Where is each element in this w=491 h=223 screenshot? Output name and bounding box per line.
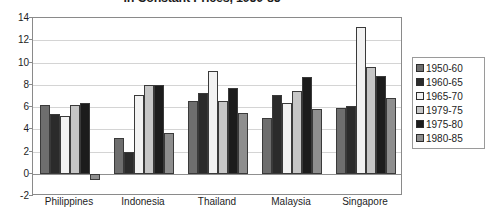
y-tick-label: 8: [3, 78, 29, 89]
legend-label: 1980-85: [426, 133, 463, 144]
legend-item: 1950-60: [416, 61, 482, 75]
chart-title: in Constant Prices, 1950-85: [0, 0, 404, 5]
legend-swatch: [416, 134, 424, 142]
bar-group: [33, 18, 107, 194]
bar: [198, 93, 208, 174]
y-tick-label: 10: [3, 56, 29, 67]
bar: [188, 101, 198, 173]
bar: [302, 77, 312, 174]
bar: [376, 76, 386, 174]
bar: [312, 109, 322, 174]
bar: [70, 105, 80, 174]
bar: [208, 71, 218, 173]
legend-item: 1980-85: [416, 131, 482, 145]
bar: [292, 91, 302, 173]
y-tick-label: 12: [3, 34, 29, 45]
legend-label: 1965-70: [426, 91, 463, 102]
bar-group: [181, 18, 255, 194]
bar: [60, 116, 70, 174]
bars-layer: [33, 18, 401, 194]
x-axis-label: Philippines: [32, 196, 106, 207]
legend-item: 1965-70: [416, 89, 482, 103]
bar: [336, 108, 346, 174]
legend-item: 1979-75: [416, 103, 482, 117]
bar: [346, 106, 356, 174]
legend-swatch: [416, 78, 424, 86]
legend: 1950-601960-651965-701979-751975-801980-…: [412, 57, 485, 149]
bar-chart: in Constant Prices, 1950-85 14121086420-…: [0, 0, 491, 223]
bar: [218, 101, 228, 173]
bar-group: [255, 18, 329, 194]
y-tick-label: 4: [3, 123, 29, 134]
x-axis-label: Malaysia: [254, 196, 328, 207]
bar: [40, 105, 50, 174]
bar: [144, 85, 154, 174]
bar: [386, 98, 396, 174]
legend-item: 1975-80: [416, 117, 482, 131]
y-tick-label: 0: [3, 167, 29, 178]
bar: [366, 67, 376, 174]
bar-group: [107, 18, 181, 194]
bar: [154, 85, 164, 174]
legend-item: 1960-65: [416, 75, 482, 89]
legend-label: 1975-80: [426, 119, 463, 130]
bar: [282, 103, 292, 174]
bar-group: [329, 18, 403, 194]
bar: [164, 133, 174, 174]
y-axis: 14121086420-2: [0, 17, 29, 195]
bar: [90, 174, 100, 181]
bar: [80, 103, 90, 174]
y-tick-label: 14: [3, 12, 29, 23]
bar: [272, 95, 282, 174]
bar: [50, 114, 60, 174]
x-axis-category-labels: PhilippinesIndonesiaThailandMalaysiaSing…: [32, 196, 402, 210]
bar: [262, 118, 272, 174]
plot-area: [32, 17, 402, 195]
bar: [356, 27, 366, 174]
y-tick-label: -2: [3, 190, 29, 201]
y-tick-label: 6: [3, 101, 29, 112]
legend-label: 1960-65: [426, 77, 463, 88]
legend-swatch: [416, 120, 424, 128]
bar: [124, 152, 134, 174]
bar: [228, 88, 238, 174]
legend-swatch: [416, 106, 424, 114]
bar: [134, 95, 144, 174]
legend-swatch: [416, 64, 424, 72]
legend-swatch: [416, 92, 424, 100]
x-axis-label: Indonesia: [106, 196, 180, 207]
bar: [114, 138, 124, 174]
bar: [238, 113, 248, 174]
x-axis-label: Singapore: [328, 196, 402, 207]
y-tick-label: 2: [3, 145, 29, 156]
x-axis-label: Thailand: [180, 196, 254, 207]
legend-label: 1979-75: [426, 105, 463, 116]
legend-label: 1950-60: [426, 63, 463, 74]
